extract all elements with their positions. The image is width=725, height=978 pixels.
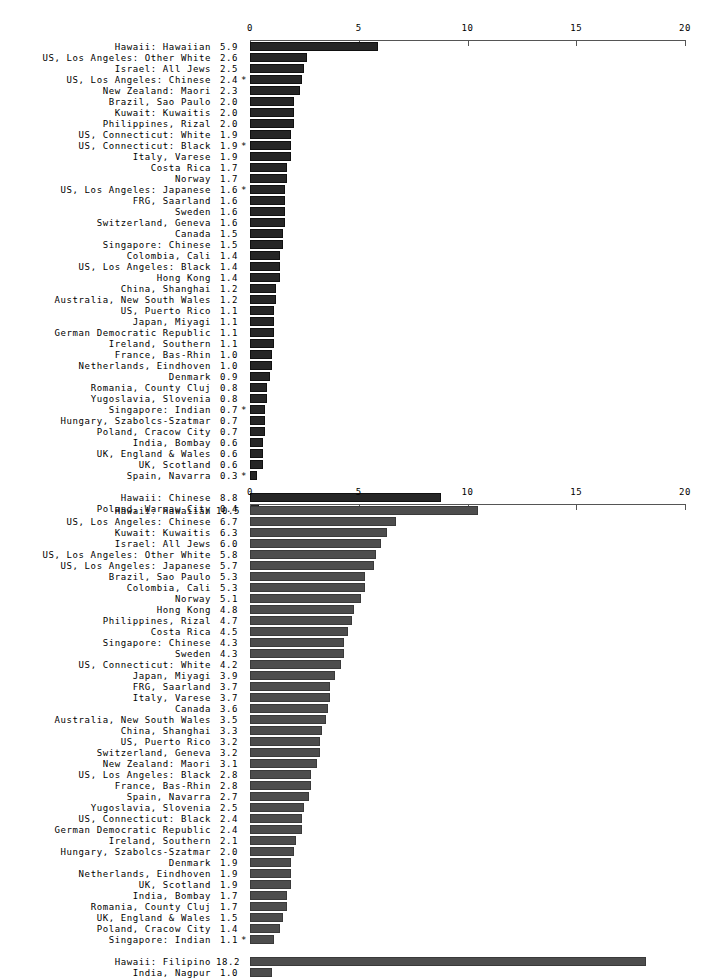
axis-tick-label: 5 bbox=[356, 488, 362, 497]
bar-row: US, Los Angeles: Chinese6.7 bbox=[0, 516, 725, 527]
bar-row-label: Philippines, Rizal bbox=[103, 119, 211, 129]
bar-row-label: Hong Kong bbox=[157, 605, 211, 615]
bar bbox=[250, 616, 352, 625]
bar-row-label: Spain, Navarra bbox=[127, 792, 211, 802]
bar-row: US, Connecticut: White4.2 bbox=[0, 659, 725, 670]
bar bbox=[250, 416, 265, 425]
bar bbox=[250, 517, 396, 526]
bar-row-value: 4.5 bbox=[216, 627, 238, 637]
bar-row-value: 3.6 bbox=[216, 704, 238, 714]
bar-row-label: UK, England & Wales bbox=[97, 913, 211, 923]
bar-row-value: 1.7 bbox=[216, 163, 238, 173]
bar bbox=[250, 383, 267, 392]
x-axis-bottom: 05101520 bbox=[250, 482, 685, 506]
bar-row: US, Los Angeles: Other White5.8 bbox=[0, 549, 725, 560]
bar-row-value: 0.6 bbox=[216, 449, 238, 459]
bar bbox=[250, 207, 285, 216]
bar-row-label: US, Los Angeles: Other White bbox=[42, 53, 211, 63]
bar bbox=[250, 968, 272, 977]
bar-row-value: 5.9 bbox=[216, 42, 238, 52]
bar-row: UK, Scotland1.9 bbox=[0, 879, 725, 890]
bar-row: Canada1.5 bbox=[0, 228, 725, 239]
bar-row: Kuwait: Kuwaitis6.3 bbox=[0, 527, 725, 538]
bar-row-label: Switzerland, Geneva bbox=[97, 218, 211, 228]
bar-row-label: Kuwait: Kuwaitis bbox=[115, 528, 211, 538]
bar-row-label: US, Puerto Rico bbox=[121, 737, 211, 747]
bar-row-label: Colombia, Cali bbox=[127, 251, 211, 261]
bar-row: India, Bombay0.6 bbox=[0, 437, 725, 448]
bar-row: Israel: All Jews6.0 bbox=[0, 538, 725, 549]
chart-panel-top: 05101520 Hawaii: Hawaiian5.9US, Los Ange… bbox=[0, 18, 725, 488]
bar-row-value: 3.2 bbox=[216, 737, 238, 747]
bar-row: Singapore: Indian0.7* bbox=[0, 404, 725, 415]
bar-row-label: US, Connecticut: White bbox=[79, 130, 211, 140]
bar-row-value: 2.5 bbox=[216, 803, 238, 813]
bar bbox=[250, 605, 354, 614]
bar-row: Australia, New South Wales3.5 bbox=[0, 714, 725, 725]
bar-row-label: Ireland, Southern bbox=[109, 339, 211, 349]
bar-row-value: 1.2 bbox=[216, 295, 238, 305]
bar-row: Spain, Navarra2.7 bbox=[0, 791, 725, 802]
bar-row-label: China, Shanghai bbox=[121, 726, 211, 736]
bar-row: US, Puerto Rico3.2 bbox=[0, 736, 725, 747]
bar-row: US, Los Angeles: Other White2.6 bbox=[0, 52, 725, 63]
bar-row-asterisk: * bbox=[241, 405, 246, 415]
bar-row-value: 1.5 bbox=[216, 229, 238, 239]
bar-row-value: 2.4 bbox=[216, 825, 238, 835]
bar-row: US, Los Angeles: Black2.8 bbox=[0, 769, 725, 780]
bar-row-label: Japan, Miyagi bbox=[133, 317, 211, 327]
bar-row-value: 1.1 bbox=[216, 317, 238, 327]
bar bbox=[250, 372, 270, 381]
chart-panel-bottom: 05101520 Hawaii: Hawaiian10.5US, Los Ang… bbox=[0, 482, 725, 960]
bar-row-value: 2.8 bbox=[216, 770, 238, 780]
axis-tick-label: 15 bbox=[570, 24, 582, 33]
bar-row-value: 1.1 bbox=[216, 328, 238, 338]
bar-row-label: Netherlands, Eindhoven bbox=[79, 869, 211, 879]
bar-row-label: India, Bombay bbox=[133, 891, 211, 901]
bar-row: Spain, Navarra0.3* bbox=[0, 470, 725, 481]
bar-row: FRG, Saarland1.6 bbox=[0, 195, 725, 206]
bar-row-label: US, Connecticut: Black bbox=[79, 814, 211, 824]
bar-row: Ireland, Southern1.1 bbox=[0, 338, 725, 349]
bar-row-label: Switzerland, Geneva bbox=[97, 748, 211, 758]
bar-row-value: 2.0 bbox=[216, 97, 238, 107]
bar-row-value: 3.7 bbox=[216, 693, 238, 703]
bar-row-value: 3.9 bbox=[216, 671, 238, 681]
bar bbox=[250, 847, 294, 856]
bar bbox=[250, 660, 341, 669]
bar-row-label: China, Shanghai bbox=[121, 284, 211, 294]
bar-row-label: Brazil, Sao Paulo bbox=[109, 97, 211, 107]
bar bbox=[250, 284, 276, 293]
bar bbox=[250, 726, 322, 735]
bar-row: France, Bas-Rhin2.8 bbox=[0, 780, 725, 791]
bar-row: UK, England & Wales0.6 bbox=[0, 448, 725, 459]
bar-row-label: Costa Rica bbox=[151, 627, 211, 637]
bar bbox=[250, 141, 291, 150]
bar-row-label: Denmark bbox=[169, 858, 211, 868]
bar-row: Hawaii: Hawaiian5.9 bbox=[0, 41, 725, 52]
bar-row-value: 0.7 bbox=[216, 427, 238, 437]
bar-row-value: 3.1 bbox=[216, 759, 238, 769]
bar-row-label: Israel: All Jews bbox=[115, 539, 211, 549]
bar-row-value: 4.8 bbox=[216, 605, 238, 615]
bar bbox=[250, 306, 274, 315]
bar-row-value: 1.9 bbox=[216, 869, 238, 879]
bar-row: Israel: All Jews2.5 bbox=[0, 63, 725, 74]
bar-row-value: 1.9 bbox=[216, 130, 238, 140]
bar bbox=[250, 361, 272, 370]
bar-row-value: 1.7 bbox=[216, 174, 238, 184]
bar bbox=[250, 163, 287, 172]
bar-row-label: FRG, Saarland bbox=[133, 196, 211, 206]
bar bbox=[250, 748, 320, 757]
bar-row: Hawaii: Hawaiian10.5 bbox=[0, 505, 725, 516]
bar-row: German Democratic Republic2.4 bbox=[0, 824, 725, 835]
bar-row-label: New Zealand: Maori bbox=[103, 759, 211, 769]
bar-row-label: UK, England & Wales bbox=[97, 449, 211, 459]
bar bbox=[250, 174, 287, 183]
bar-row-value: 5.1 bbox=[216, 594, 238, 604]
bar-row: UK, Scotland0.6 bbox=[0, 459, 725, 470]
bar-row-label: Netherlands, Eindhoven bbox=[79, 361, 211, 371]
bar bbox=[250, 682, 330, 691]
bar-row-value: 1.7 bbox=[216, 902, 238, 912]
bar-row-value: 18.2 bbox=[216, 957, 238, 967]
